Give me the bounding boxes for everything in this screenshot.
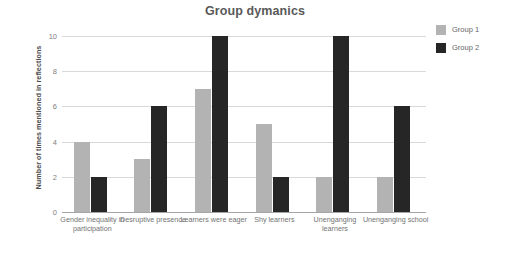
bar-group-2	[273, 177, 289, 212]
legend: Group 1Group 2	[436, 24, 508, 60]
plot-area: 0246810	[62, 36, 426, 212]
bar-group-2	[333, 36, 349, 212]
x-axis-labels: Gender inequality in participationDesrup…	[62, 215, 426, 254]
legend-label: Group 1	[452, 25, 479, 34]
legend-item[interactable]: Group 2	[436, 42, 508, 53]
bar-group-1	[256, 124, 272, 212]
bar-group-1	[377, 177, 393, 212]
x-tick-label: Gender inequality in participation	[59, 215, 126, 233]
y-tick-label: 0	[53, 208, 57, 217]
legend-label: Group 2	[452, 43, 479, 52]
bar-group-2	[394, 106, 410, 212]
bar-group	[183, 36, 244, 212]
bar-group-1	[74, 142, 90, 212]
bar-group-2	[91, 177, 107, 212]
y-axis-title: Number of times mentioned in reflections	[34, 28, 43, 208]
bar-group-1	[195, 89, 211, 212]
legend-swatch-icon	[436, 43, 446, 53]
y-tick-label: 8	[53, 67, 57, 76]
x-tick-label: Shy learners	[241, 215, 308, 224]
bar-group-1	[316, 177, 332, 212]
bar-group-2	[212, 36, 228, 212]
bar-group	[305, 36, 366, 212]
bar-group	[123, 36, 184, 212]
bar-group-2	[151, 106, 167, 212]
bar-chart: Group dymanics Number of times mentioned…	[0, 0, 510, 254]
x-tick-label: Unenganging school	[362, 215, 429, 224]
x-tick-label: Desruptive presence	[120, 215, 187, 224]
bar-group-1	[134, 159, 150, 212]
x-tick-label: Learners were eager	[180, 215, 247, 224]
legend-item[interactable]: Group 1	[436, 24, 508, 35]
bars-layer	[62, 36, 426, 212]
x-tick-label: Unenganging learners	[302, 215, 369, 233]
bar-group	[244, 36, 305, 212]
bar-group	[365, 36, 426, 212]
y-tick-label: 6	[53, 102, 57, 111]
legend-swatch-icon	[436, 25, 446, 35]
bar-group	[62, 36, 123, 212]
chart-title: Group dymanics	[60, 4, 450, 18]
y-tick-label: 10	[49, 32, 57, 41]
axis-baseline: 0	[62, 212, 426, 213]
y-tick-label: 2	[53, 172, 57, 181]
y-tick-label: 4	[53, 137, 57, 146]
